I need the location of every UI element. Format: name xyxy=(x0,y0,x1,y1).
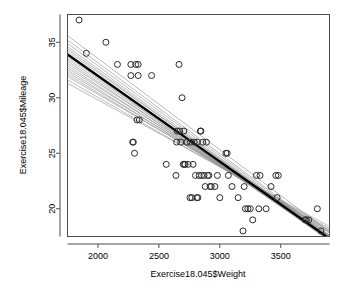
scatter-plot-figure: 2000250030003500 20253035 Exercise18.045… xyxy=(0,0,344,295)
y-axis-tick-label: 20 xyxy=(47,204,57,214)
x-axis-tick-label: 2000 xyxy=(88,251,108,261)
y-axis-label: Exercise18.045$Mileage xyxy=(18,76,28,175)
y-axis-tick-label: 30 xyxy=(47,93,57,103)
y-axis-tick-label: 35 xyxy=(47,37,57,47)
y-axis-tick-label: 25 xyxy=(47,148,57,158)
x-axis-tick-label: 3500 xyxy=(271,251,291,261)
chart-canvas: 2000250030003500 20253035 Exercise18.045… xyxy=(0,0,344,295)
x-axis-tick-label: 3000 xyxy=(210,251,230,261)
x-axis-label: Exercise18.045$Weight xyxy=(151,269,246,279)
x-axis-tick-label: 2500 xyxy=(149,251,169,261)
